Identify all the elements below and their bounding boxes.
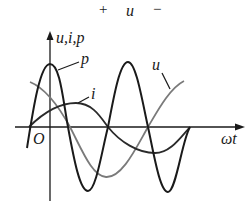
i-leader-line (78, 97, 89, 103)
i-curve-label: i (91, 86, 95, 102)
p-curve-label: p (81, 51, 89, 67)
y-axis-arrow-icon (47, 31, 54, 40)
axes (15, 31, 245, 201)
u-curve-label: u (152, 57, 160, 73)
plot-area (0, 0, 246, 201)
p-leader-line (58, 62, 79, 70)
u-leader-line (162, 73, 170, 89)
y-axis-label: u,i,p (56, 30, 84, 46)
waveform-diagram: + u − u,i,p ωt O p i u (0, 0, 246, 201)
i-curve (29, 103, 190, 153)
x-axis-label: ωt (221, 131, 237, 147)
origin-label: O (33, 131, 45, 147)
